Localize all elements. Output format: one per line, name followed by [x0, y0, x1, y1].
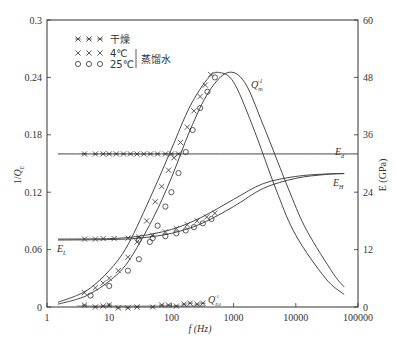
x-marker-icon	[171, 155, 176, 160]
x-tick-label: 100000	[343, 312, 373, 323]
circle-marker-icon	[125, 268, 130, 273]
series	[88, 75, 218, 298]
circle-marker-icon	[86, 61, 91, 66]
y-right-tick-label: 24	[363, 187, 373, 198]
asterisk-marker-icon	[121, 151, 126, 156]
chart-canvas: 11010010001000010000000.060.120.180.240.…	[0, 0, 397, 351]
x-tick-label: 10000	[283, 312, 308, 323]
asterisk-marker-icon	[75, 36, 80, 41]
x-marker-icon	[166, 168, 171, 173]
circle-marker-icon	[155, 223, 160, 228]
asterisk-marker-icon	[101, 151, 106, 156]
x-marker-icon	[107, 276, 112, 281]
asterisk-marker-icon	[141, 151, 146, 156]
x-marker-icon	[153, 199, 158, 204]
annotation-eh: EH	[332, 177, 344, 190]
y-axis-right-label: E (GPa)	[377, 159, 389, 192]
series-layer	[58, 72, 358, 311]
asterisk-marker-icon	[134, 151, 139, 156]
x-marker-icon	[178, 140, 183, 145]
x-marker-icon	[144, 218, 149, 223]
asterisk-marker-icon	[93, 151, 98, 156]
axis-ticks: 11010010001000010000000.060.120.180.240.…	[25, 15, 374, 324]
series	[58, 72, 344, 304]
legend-markers	[75, 36, 102, 66]
y-left-tick-label: 0	[37, 302, 42, 313]
series	[82, 151, 181, 156]
x-tick-label: 100	[164, 312, 179, 323]
plot-frame	[47, 20, 358, 307]
circle-marker-icon	[136, 257, 141, 262]
x-marker-icon	[198, 94, 203, 99]
y-left-tick-label: 0.12	[25, 187, 43, 198]
y-left-tick-label: 0.24	[25, 72, 43, 83]
asterisk-marker-icon	[97, 36, 102, 41]
circle-marker-icon	[169, 190, 174, 195]
circle-marker-icon	[107, 283, 112, 288]
circle-marker-icon	[163, 204, 168, 209]
series	[58, 174, 344, 240]
asterisk-marker-icon	[188, 301, 193, 306]
series	[58, 174, 344, 240]
circle-marker-icon	[97, 61, 102, 66]
asterisk-marker-icon	[93, 304, 98, 309]
asterisk-marker-icon	[134, 304, 139, 309]
y-right-tick-label: 0	[363, 302, 368, 313]
y-left-tick-label: 0.18	[25, 129, 43, 140]
x-tick-label: 10	[104, 312, 114, 323]
asterisk-marker-icon	[176, 151, 181, 156]
series-curve	[58, 72, 344, 304]
x-marker-icon	[159, 184, 164, 189]
x-marker-icon	[125, 236, 130, 241]
x-marker-icon	[185, 125, 190, 130]
asterisk-marker-icon	[128, 151, 133, 156]
series-curve	[58, 174, 344, 240]
annotation-qm: Qm-1	[251, 78, 263, 92]
series	[82, 301, 206, 311]
circle-marker-icon	[174, 231, 179, 236]
y-right-tick-label: 48	[363, 72, 373, 83]
x-marker-icon	[101, 280, 106, 285]
x-marker-icon	[125, 255, 130, 260]
asterisk-marker-icon	[155, 151, 160, 156]
asterisk-marker-icon	[150, 304, 155, 309]
asterisk-marker-icon	[82, 151, 87, 156]
x-marker-icon	[116, 268, 121, 273]
x-tick-label: 1	[45, 312, 50, 323]
annotation-el: EL	[56, 243, 67, 256]
asterisk-marker-icon	[200, 301, 205, 306]
y-left-tick-label: 0.06	[25, 244, 43, 255]
series	[82, 72, 214, 295]
x-marker-icon	[86, 50, 91, 55]
y-axis-left-label: 1/QE	[12, 165, 25, 184]
y-right-tick-label: 60	[363, 15, 373, 26]
asterisk-marker-icon	[107, 151, 112, 156]
annotation-ed: Ed	[334, 146, 345, 159]
y-left-tick-label: 0.3	[30, 15, 43, 26]
circle-marker-icon	[212, 75, 217, 80]
asterisk-marker-icon	[114, 151, 119, 156]
legend-group-label: 蒸馏水	[141, 53, 171, 65]
annotation-qed: QEd-1	[208, 294, 221, 307]
x-marker-icon	[203, 82, 208, 87]
asterisk-marker-icon	[86, 36, 91, 41]
x-tick-label: 1000	[224, 312, 244, 323]
y-right-tick-label: 36	[363, 129, 373, 140]
legend-label-25c: 25℃	[110, 59, 134, 70]
x-marker-icon	[97, 50, 102, 55]
x-marker-icon	[212, 211, 217, 216]
asterisk-marker-icon	[163, 151, 168, 156]
circle-marker-icon	[75, 61, 80, 66]
circle-marker-icon	[190, 127, 195, 132]
asterisk-marker-icon	[148, 151, 153, 156]
x-axis-label: f (Hz)	[188, 323, 212, 335]
x-marker-icon	[191, 108, 196, 113]
legend-label-4c: 4℃	[110, 48, 128, 59]
asterisk-marker-icon	[169, 151, 174, 156]
legend: 干燥 4℃ 25℃ 蒸馏水	[75, 34, 171, 70]
legend-label-dry: 干燥	[110, 34, 130, 45]
circle-marker-icon	[176, 170, 181, 175]
x-marker-icon	[93, 285, 98, 290]
y-right-tick-label: 12	[363, 244, 373, 255]
x-marker-icon	[75, 50, 80, 55]
